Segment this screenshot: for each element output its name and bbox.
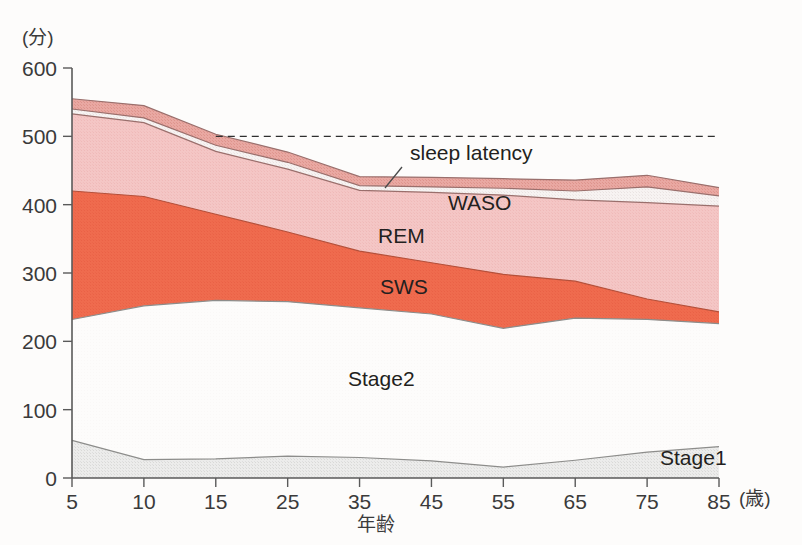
x-axis-unit-label: (歳) bbox=[739, 488, 771, 509]
x-tick-label-35: 35 bbox=[348, 490, 371, 513]
x-tick-label-65: 65 bbox=[564, 490, 587, 513]
x-tick-label-45: 45 bbox=[420, 490, 443, 513]
y-tick-label-100: 100 bbox=[22, 399, 57, 422]
x-tick-label-5: 5 bbox=[66, 490, 78, 513]
y-axis-unit-label: (分) bbox=[22, 27, 54, 48]
y-tick-label-0: 0 bbox=[45, 467, 57, 490]
series-label-waso: WASO bbox=[448, 191, 511, 214]
y-tick-label-600: 600 bbox=[22, 57, 57, 80]
x-tick-label-85: 85 bbox=[707, 490, 730, 513]
series-label-rem: REM bbox=[378, 224, 425, 247]
y-tick-label-300: 300 bbox=[22, 262, 57, 285]
chart-canvas: 0100200300400500600 5101525354555657585 … bbox=[0, 0, 802, 545]
sleep-architecture-area-chart: 0100200300400500600 5101525354555657585 … bbox=[0, 0, 802, 545]
y-tick-label-200: 200 bbox=[22, 330, 57, 353]
series-label-stage2: Stage2 bbox=[348, 367, 415, 390]
series-label-sleep-latency: sleep latency bbox=[410, 141, 533, 164]
x-tick-label-10: 10 bbox=[132, 490, 155, 513]
y-tick-label-400: 400 bbox=[22, 194, 57, 217]
series-label-sws: SWS bbox=[380, 275, 428, 298]
x-tick-label-25: 25 bbox=[276, 490, 299, 513]
x-tick-label-75: 75 bbox=[635, 490, 658, 513]
x-tick-label-55: 55 bbox=[492, 490, 515, 513]
series-label-stage1: Stage1 bbox=[660, 446, 727, 469]
x-axis-title: 年齢 bbox=[357, 514, 395, 535]
y-tick-label-500: 500 bbox=[22, 125, 57, 148]
x-tick-label-15: 15 bbox=[204, 490, 227, 513]
